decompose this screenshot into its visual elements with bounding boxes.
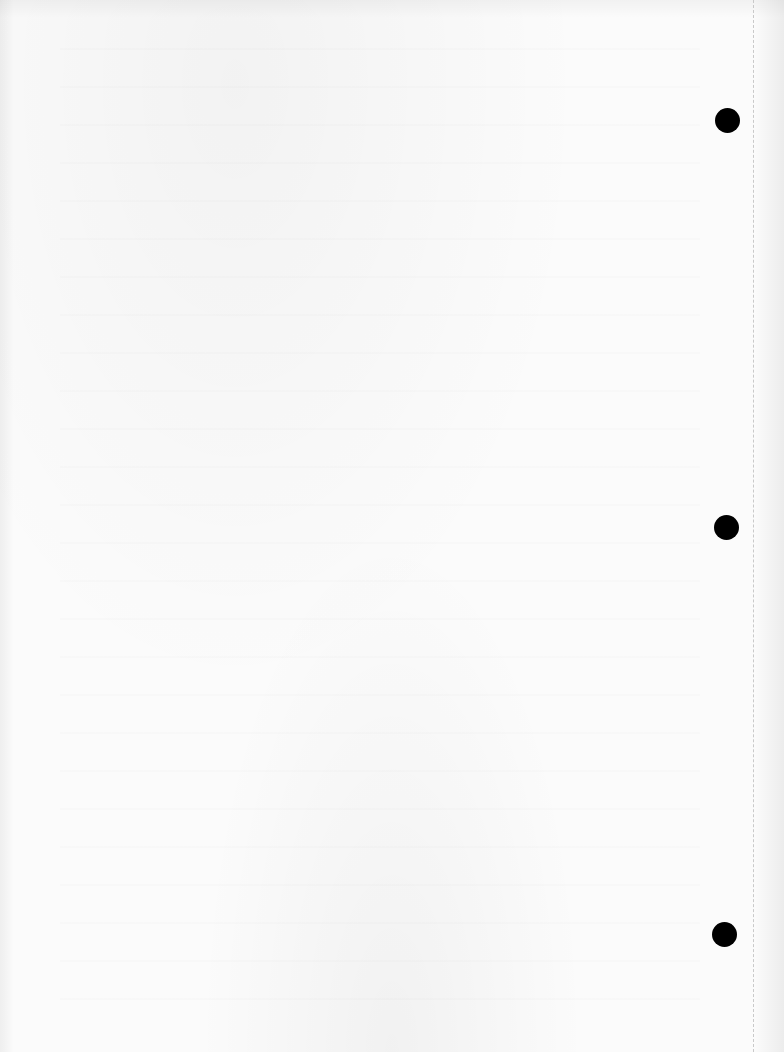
scanned-page	[0, 0, 784, 1052]
margin-line	[753, 0, 754, 1052]
bleed-through-texture	[60, 40, 700, 1000]
page-edge-shadow	[754, 0, 784, 1052]
punch-hole-top	[715, 108, 740, 133]
punch-hole-middle	[714, 515, 739, 540]
punch-hole-bottom	[712, 922, 737, 947]
